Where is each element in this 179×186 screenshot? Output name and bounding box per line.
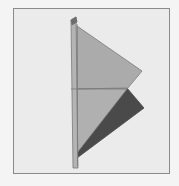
plate-inner-edge [77,24,78,166]
geometric-figure [0,0,179,186]
upper-triangle-face [77,26,142,89]
